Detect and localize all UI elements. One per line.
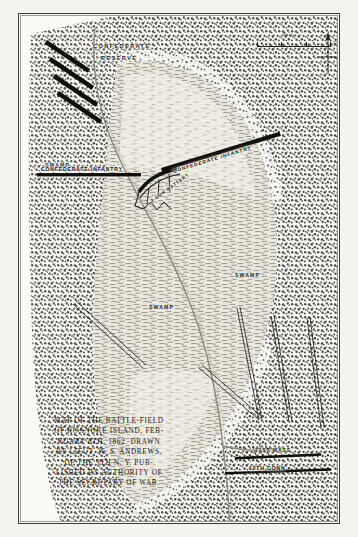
plate-border-inner: Scale 100 200 300 FEET (20, 15, 338, 522)
scale-title: Scale (283, 32, 295, 37)
map-plate-page: Scale 100 200 300 FEET (0, 0, 358, 537)
caption-line-1: MAP OF THE BATTLE-FIELD (33, 416, 185, 426)
scale-tick-0 (257, 42, 258, 47)
scale-label-200: 200 (303, 44, 308, 48)
caption-line-7: THE SECRETARY OF WAR. (33, 478, 185, 488)
caption-line-6: LISHED BY AUTHORITY OF (33, 468, 185, 478)
north-arrow-icon (317, 30, 338, 78)
scale-label-100: 100 (278, 44, 283, 48)
caption-line-2: OF ROANOKE ISLAND, FEB- (33, 426, 185, 436)
plate-border-outer: Scale 100 200 300 FEET (18, 13, 340, 524)
caption-line-3: RUARY 8TH, 1862. DRAWN (33, 437, 185, 447)
caption-line-5: OF THE 9TH N. Y. PUB- (33, 458, 185, 468)
caption-line-4: BY LIEUT. W. S. ANDREWS, (33, 447, 185, 457)
map-caption: MAP OF THE BATTLE-FIELD OF ROANOKE ISLAN… (33, 416, 185, 489)
